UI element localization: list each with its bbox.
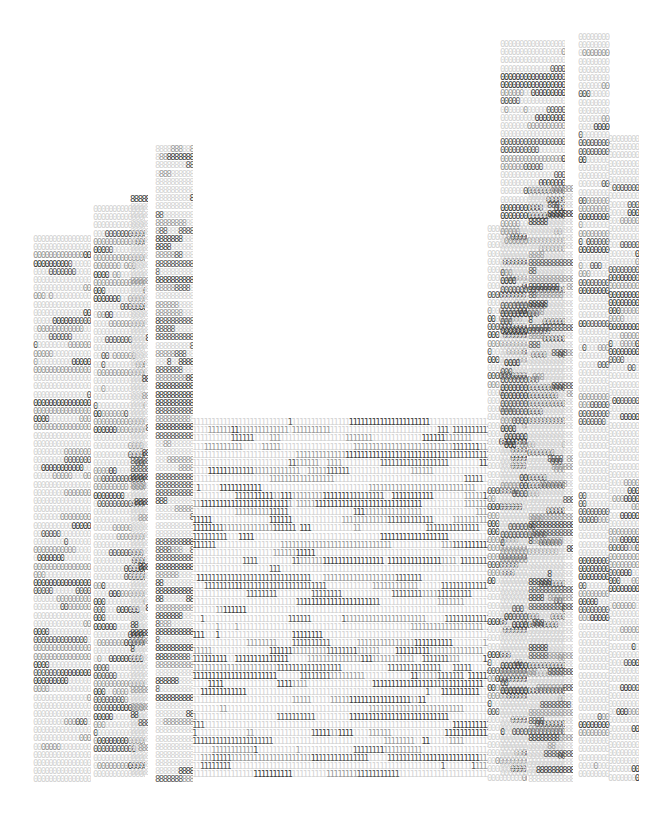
building-left-3: 8888888888888888888888888888888888888888… <box>130 195 148 785</box>
building-far-right: 0000000000000000000000000000000000000000… <box>608 135 639 785</box>
building-center-low: 1111111111111111111111111111111111111111… <box>192 418 488 785</box>
building-far-left: 0000000000000000000000000000000000000000… <box>33 235 91 785</box>
building-right-tower: 0000000000000000000000000000000000000000… <box>578 33 610 785</box>
building-right-3: 8888888888888888888888888888888888888888… <box>528 185 573 785</box>
cityscape-artwork: 0000000000000000000000000000000000000000… <box>0 0 671 823</box>
building-left-tower: 8888888888888888888888888888888888888888… <box>155 145 193 785</box>
